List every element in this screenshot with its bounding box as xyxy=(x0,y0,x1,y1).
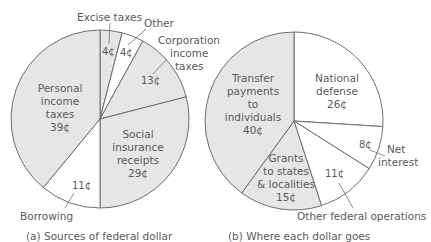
label-personal-taxes: taxes xyxy=(46,108,74,120)
label-corporation-income: income xyxy=(170,47,208,59)
label-defense: defense xyxy=(316,85,358,97)
label-transfer-payments: payments xyxy=(227,85,279,97)
value-personal: 39¢ xyxy=(50,121,70,133)
value-other-ops: 11¢ xyxy=(325,168,344,179)
chart-canvas: Excise taxes Other Corporation income ta… xyxy=(0,0,431,242)
label-corporation-taxes: taxes xyxy=(175,60,203,72)
label-social: Social xyxy=(122,128,153,140)
value-defense: 26¢ xyxy=(327,98,347,110)
caption-b: (b) Where each dollar goes xyxy=(228,230,370,242)
label-grants-localities: & localities xyxy=(257,178,315,190)
label-other-ops: Other federal operations xyxy=(297,210,426,222)
label-interest: interest xyxy=(378,156,418,168)
value-borrowing: 11¢ xyxy=(72,180,91,191)
value-excise: 4¢ xyxy=(102,46,115,57)
label-national: National xyxy=(315,72,359,84)
label-grants: Grants xyxy=(268,152,303,164)
label-personal: Personal xyxy=(38,82,83,94)
label-personal-income: income xyxy=(41,95,79,107)
label-net: Net xyxy=(387,143,405,155)
label-corporation: Corporation xyxy=(158,34,220,46)
value-transfer: 40¢ xyxy=(243,124,263,136)
label-transfer-individuals: individuals xyxy=(225,111,281,123)
label-other: Other xyxy=(144,17,174,29)
value-corporation: 13¢ xyxy=(141,75,160,86)
label-borrowing: Borrowing xyxy=(20,210,73,222)
value-social: 29¢ xyxy=(128,167,148,179)
label-social-receipts: receipts xyxy=(117,154,159,166)
label-grants-states: to states xyxy=(263,165,309,177)
pie-chart-sources xyxy=(11,30,189,208)
label-excise-taxes: Excise taxes xyxy=(77,11,142,23)
value-grants: 15¢ xyxy=(276,191,296,203)
value-interest: 8¢ xyxy=(359,139,372,150)
value-other: 4¢ xyxy=(120,47,133,58)
label-transfer: Transfer xyxy=(231,72,275,84)
label-social-insurance: insurance xyxy=(112,141,163,153)
caption-a: (a) Sources of federal dollar xyxy=(26,230,173,242)
label-transfer-to: to xyxy=(248,98,259,110)
